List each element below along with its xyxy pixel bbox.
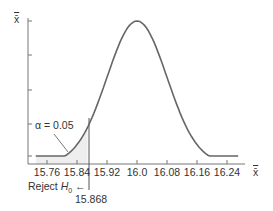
- x-tick-label: 16.24: [214, 167, 240, 178]
- x-tick-label: 16.16: [184, 167, 210, 178]
- x-tick-label: 15.92: [94, 167, 120, 178]
- x-tick-label: 15.84: [64, 167, 90, 178]
- left-arrow-icon: ←: [75, 180, 86, 192]
- alpha-pointer-line: [54, 134, 68, 152]
- rejection-region-shade: [36, 127, 88, 164]
- critical-value-label: 15.868: [75, 194, 107, 205]
- x-axis-label: x̄: [253, 167, 258, 178]
- normal-curve: [36, 21, 238, 156]
- x-tick-label: 15.76: [34, 167, 60, 178]
- reject-text: Reject: [28, 180, 61, 192]
- y-axis-ticks: [28, 21, 32, 156]
- x-tick-label: 16.0: [127, 167, 147, 178]
- y-axis-label: x̄: [14, 14, 19, 25]
- h-subscript: 0: [68, 187, 72, 194]
- x-tick-label: 16.08: [154, 167, 180, 178]
- alpha-label: α = 0.05: [35, 120, 73, 131]
